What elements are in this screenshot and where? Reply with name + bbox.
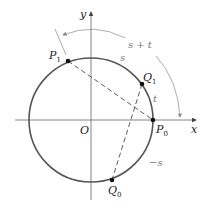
angle-tick <box>55 29 66 55</box>
y-axis-label: y <box>79 8 87 21</box>
arc-s-label: s <box>120 52 125 63</box>
point-p0 <box>151 118 156 123</box>
s-plus-t-arc-upper <box>63 29 125 38</box>
s-plus-t-arc-lower <box>156 56 180 117</box>
point-p1 <box>66 59 71 64</box>
origin-label: O <box>80 124 89 137</box>
q0-label: Q0 <box>108 184 122 199</box>
arc-t-label: t <box>153 93 158 104</box>
x-axis-label: x <box>191 123 198 136</box>
point-q0 <box>110 178 115 183</box>
chord-q1-q0 <box>112 84 142 180</box>
arc-neg-s-label: −s <box>149 157 163 168</box>
arc-s-plus-t-label: s + t <box>128 39 153 50</box>
p1-label: P1 <box>48 49 61 64</box>
q1-label: Q1 <box>143 71 157 86</box>
chord-p1-p0 <box>68 61 153 120</box>
p0-label: P0 <box>155 123 168 138</box>
unit-circle-diagram: y x O P1 Q1 P0 Q0 s t −s s + t <box>0 0 210 213</box>
